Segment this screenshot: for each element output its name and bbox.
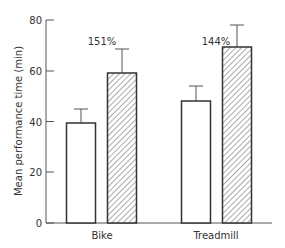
- x-category-treadmill: Treadmill: [192, 230, 238, 241]
- y-tick-60: 60: [29, 66, 42, 77]
- annotation-treadmill: 144%: [202, 36, 231, 47]
- y-tick-20: 20: [29, 167, 42, 178]
- y-tick-labels: 0 20 40 60 80: [29, 15, 42, 229]
- bar-treadmill-treatment: [223, 25, 252, 223]
- bar-treadmill-control: [182, 86, 211, 223]
- x-category-bike: Bike: [91, 230, 112, 241]
- y-ticks: [46, 20, 54, 223]
- bar-bike-treatment: [108, 49, 137, 223]
- y-tick-80: 80: [29, 15, 42, 26]
- y-tick-40: 40: [29, 117, 42, 128]
- y-tick-0: 0: [36, 218, 42, 229]
- y-axis-label: Mean performance time (min): [13, 46, 24, 196]
- bar-chart: 0 20 40 60 80 Mean performance time (min…: [0, 0, 285, 248]
- bar-bike-control: [67, 109, 96, 223]
- annotation-bike: 151%: [88, 36, 117, 47]
